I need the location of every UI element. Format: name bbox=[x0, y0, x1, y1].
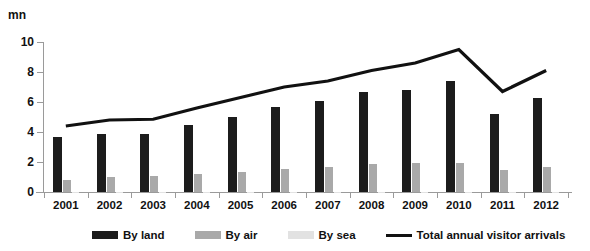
bar-by-land-2012 bbox=[533, 98, 542, 193]
x-tick-label-2009: 2009 bbox=[392, 199, 438, 211]
x-tick-10 bbox=[481, 193, 482, 198]
x-tick-0 bbox=[44, 193, 45, 198]
x-tick-6 bbox=[306, 193, 307, 198]
legend-item-by-sea[interactable]: By sea bbox=[288, 229, 356, 241]
bar-by-land-2003 bbox=[140, 134, 149, 193]
bar-by-air-2009 bbox=[412, 163, 420, 192]
y-tick-4 bbox=[37, 132, 43, 133]
x-tick-label-2004: 2004 bbox=[174, 199, 220, 211]
x-tick-2 bbox=[131, 193, 132, 198]
x-tick-label-2011: 2011 bbox=[480, 199, 526, 211]
bar-by-land-2004 bbox=[184, 125, 193, 193]
x-tick-label-2007: 2007 bbox=[305, 199, 351, 211]
y-tick-2 bbox=[37, 162, 43, 163]
legend-swatch-by-sea bbox=[288, 231, 314, 239]
x-tick-label-2001: 2001 bbox=[43, 199, 89, 211]
bar-by-land-2009 bbox=[402, 90, 411, 192]
bar-by-air-2002 bbox=[107, 177, 115, 192]
bar-by-land-2007 bbox=[315, 101, 324, 193]
x-axis-line bbox=[36, 192, 572, 193]
bar-by-air-2007 bbox=[325, 167, 333, 193]
x-tick-8 bbox=[393, 193, 394, 198]
y-tick-label-8: 8 bbox=[0, 65, 34, 79]
bar-by-air-2012 bbox=[543, 167, 551, 193]
y-tick-8 bbox=[37, 72, 43, 73]
y-tick-label-6: 6 bbox=[0, 95, 34, 109]
x-tick-label-2003: 2003 bbox=[130, 199, 176, 211]
bar-by-land-2011 bbox=[490, 114, 499, 192]
legend-item-by-land[interactable]: By land bbox=[92, 229, 165, 241]
bar-by-land-2008 bbox=[359, 92, 368, 193]
chart-legend: By landBy airBy seaTotal annual visitor … bbox=[0, 224, 590, 246]
bar-by-air-2001 bbox=[63, 180, 71, 192]
bar-by-land-2001 bbox=[53, 137, 62, 193]
legend-swatch-by-land bbox=[92, 231, 118, 239]
legend-swatch-by-air bbox=[195, 231, 221, 239]
y-tick-label-2: 2 bbox=[0, 155, 34, 169]
bar-by-air-2008 bbox=[369, 164, 377, 193]
bar-by-air-2003 bbox=[150, 176, 158, 192]
bar-by-land-2010 bbox=[446, 81, 455, 192]
x-tick-label-2008: 2008 bbox=[349, 199, 395, 211]
legend-label-by-air: By air bbox=[226, 229, 258, 241]
x-tick-3 bbox=[175, 193, 176, 198]
plot-area bbox=[44, 42, 568, 192]
bar-by-land-2005 bbox=[228, 117, 237, 192]
x-tick-12 bbox=[568, 193, 569, 198]
bar-by-air-2005 bbox=[238, 172, 246, 192]
bar-by-air-2010 bbox=[456, 163, 464, 192]
bar-by-land-2006 bbox=[271, 107, 280, 193]
legend-item-total-annual-visitor-arrivals[interactable]: Total annual visitor arrivals bbox=[386, 229, 566, 241]
bar-by-land-2002 bbox=[97, 134, 106, 193]
clipped-header-text bbox=[0, 0, 590, 10]
y-tick-6 bbox=[37, 102, 43, 103]
y-tick-label-10: 10 bbox=[0, 35, 34, 49]
bar-by-air-2006 bbox=[281, 169, 289, 192]
legend-label-by-sea: By sea bbox=[319, 229, 356, 241]
y-tick-label-4: 4 bbox=[0, 125, 34, 139]
legend-item-by-air[interactable]: By air bbox=[195, 229, 258, 241]
y-tick-0 bbox=[37, 192, 43, 193]
legend-swatch-total-annual-visitor-arrivals bbox=[386, 234, 412, 237]
legend-label-total-annual-visitor-arrivals: Total annual visitor arrivals bbox=[417, 229, 566, 241]
x-tick-11 bbox=[524, 193, 525, 198]
x-tick-label-2005: 2005 bbox=[218, 199, 264, 211]
legend-label-by-land: By land bbox=[123, 229, 165, 241]
x-tick-label-2012: 2012 bbox=[523, 199, 569, 211]
bar-by-air-2004 bbox=[194, 174, 202, 192]
y-tick-label-0: 0 bbox=[0, 185, 34, 199]
x-tick-1 bbox=[88, 193, 89, 198]
x-tick-label-2010: 2010 bbox=[436, 199, 482, 211]
x-tick-9 bbox=[437, 193, 438, 198]
x-tick-5 bbox=[262, 193, 263, 198]
x-tick-7 bbox=[350, 193, 351, 198]
y-tick-10 bbox=[37, 42, 43, 43]
x-tick-label-2006: 2006 bbox=[261, 199, 307, 211]
bar-by-air-2011 bbox=[500, 170, 508, 193]
y-axis-unit-label: mn bbox=[8, 8, 26, 22]
x-tick-4 bbox=[219, 193, 220, 198]
x-tick-label-2002: 2002 bbox=[87, 199, 133, 211]
visitor-arrivals-chart: mn 0246810 20012002200320042005200620072… bbox=[0, 0, 590, 251]
